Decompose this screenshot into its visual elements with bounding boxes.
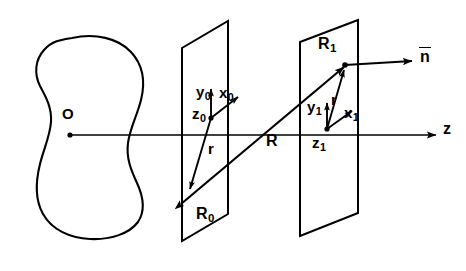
label-r0: r bbox=[208, 141, 214, 156]
vector-n bbox=[342, 61, 412, 68]
label-y1: y1 bbox=[307, 99, 322, 117]
label-origin-O: O bbox=[62, 106, 74, 121]
label-R0: R0 bbox=[196, 206, 214, 225]
label-R1-subscript: 1 bbox=[330, 42, 337, 54]
label-y0-subscript: 0 bbox=[204, 90, 211, 102]
label-z1: z1 bbox=[312, 135, 326, 153]
label-x1: x1 bbox=[344, 105, 359, 123]
label-z1-base: z bbox=[312, 134, 320, 151]
label-z0-base: z bbox=[192, 105, 200, 122]
label-z0: z0 bbox=[192, 106, 206, 124]
label-z-axis: z bbox=[443, 121, 451, 137]
label-y1-subscript: 1 bbox=[315, 105, 322, 117]
label-x1-subscript: 1 bbox=[352, 111, 359, 123]
label-R: R bbox=[266, 133, 278, 149]
label-R0-base: R bbox=[196, 205, 208, 222]
label-R1-base: R bbox=[318, 35, 330, 52]
label-z1-subscript: 1 bbox=[320, 141, 327, 153]
diagram-canvas bbox=[0, 0, 466, 271]
label-R0-subscript: 0 bbox=[208, 212, 215, 224]
label-normal-vector: n bbox=[420, 49, 430, 65]
label-x0-subscript: 0 bbox=[227, 91, 234, 103]
scattering-object-outline bbox=[36, 36, 143, 239]
label-y0: y0 bbox=[196, 84, 211, 102]
label-normal-base: n bbox=[420, 49, 430, 65]
label-z0-subscript: 0 bbox=[200, 112, 207, 124]
label-R1: R1 bbox=[318, 36, 336, 55]
label-x0: x0 bbox=[219, 85, 234, 103]
label-r1: r bbox=[331, 92, 337, 107]
scattering-geometry-figure: O y0 x0 z0 r R0 R R1 y1 r x1 z1 z n bbox=[0, 0, 466, 271]
